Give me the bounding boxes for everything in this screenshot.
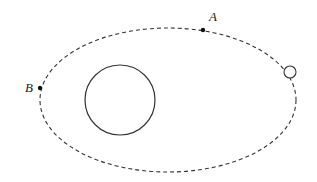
point-a-marker (201, 28, 205, 32)
point-a-label: A (208, 9, 217, 24)
satellite (284, 66, 296, 78)
central-body (85, 65, 155, 135)
orbit-diagram: A B (0, 0, 317, 182)
point-b-marker (38, 86, 42, 90)
point-b-label: B (25, 80, 33, 95)
elliptical-orbit (40, 28, 296, 172)
